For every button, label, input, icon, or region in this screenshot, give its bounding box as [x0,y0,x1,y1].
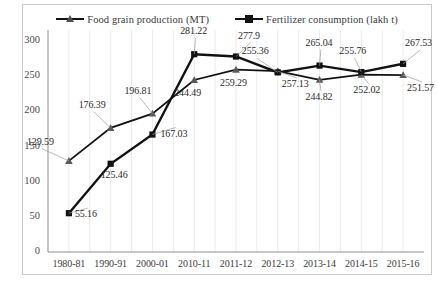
data-label-257.13: 257.13 [282,78,309,89]
data-label-167.03: 167.03 [160,128,187,139]
data-label-129.59: 129.59 [27,136,54,147]
data-label-244.49: 244.49 [174,87,201,98]
label-leader-line [361,75,368,84]
x-tick-2015-16: 2015-16 [375,258,431,269]
chart-legend: Food grain production (MT) Fertilizer co… [22,10,432,28]
label-leader-line [403,75,422,82]
data-label-55.16: 55.16 [75,208,97,219]
legend-item-food-grain-production[interactable]: Food grain production (MT) [56,14,209,25]
data-label-277.9: 277.9 [238,30,260,41]
data-label-281.22: 281.22 [180,25,207,36]
data-label-259.29: 259.29 [220,77,247,88]
legend-label-fertilizer-consumption: Fertilizer consumption (lakh t) [266,14,398,25]
plot-svg [0,30,437,285]
label-leader-line [94,112,111,128]
data-label-176.39: 176.39 [79,99,106,110]
label-leader-line [140,98,153,114]
y-tick-200: 200 [14,104,40,115]
data-label-251.57: 251.57 [407,82,434,93]
data-label-244.82: 244.82 [306,91,333,102]
label-leader-lines [42,38,422,213]
y-tick-250: 250 [14,69,40,80]
data-label-265.04: 265.04 [306,37,333,48]
legend-line-square-icon [235,14,263,24]
data-label-255.76: 255.76 [339,45,366,56]
chart-figure: Food grain production (MT) Fertilizer co… [0,0,437,285]
y-tick-300: 300 [14,34,40,45]
label-leader-line [42,149,69,161]
vertical-gridlines [69,30,403,252]
data-label-196.81: 196.81 [124,85,151,96]
y-tick-100: 100 [14,175,40,186]
data-label-255.36: 255.36 [242,45,269,56]
data-label-125.46: 125.46 [101,169,128,180]
y-tick-0: 0 [14,245,40,256]
y-tick-50: 50 [14,210,40,221]
legend-label-food-grain-production: Food grain production (MT) [87,14,209,25]
legend-line-triangle-icon [56,14,84,24]
data-label-267.53: 267.53 [405,37,432,48]
data-point-marker [108,161,114,167]
legend-item-fertilizer-consumption[interactable]: Fertilizer consumption (lakh t) [235,14,398,25]
label-leader-line [403,50,420,64]
data-label-252.02: 252.02 [353,84,380,95]
plot-area: 300250200150100500 1980-811990-912000-01… [0,30,437,285]
